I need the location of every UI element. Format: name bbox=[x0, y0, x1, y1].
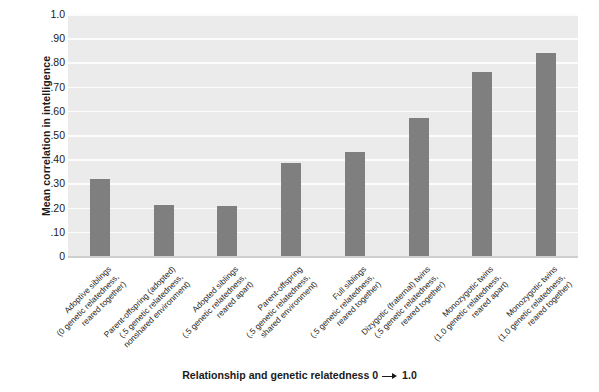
x-axis-baseline bbox=[68, 256, 578, 258]
bar bbox=[154, 205, 174, 256]
y-axis-tick: .30 bbox=[25, 177, 65, 189]
y-axis-tick: .10 bbox=[25, 226, 65, 238]
plot-area bbox=[68, 14, 578, 256]
x-axis-title-suffix: 1.0 bbox=[399, 369, 417, 381]
gridline bbox=[68, 87, 578, 89]
bar bbox=[281, 163, 301, 256]
gridline bbox=[68, 62, 578, 64]
bar bbox=[472, 72, 492, 256]
gridline bbox=[68, 208, 578, 210]
bar bbox=[90, 179, 110, 256]
y-axis-tick: .70 bbox=[25, 81, 65, 93]
gridline bbox=[68, 14, 578, 16]
y-axis-tick: .80 bbox=[25, 56, 65, 68]
y-axis-tick: .90 bbox=[25, 32, 65, 44]
gridline bbox=[68, 38, 578, 40]
x-axis-title-prefix: Relationship and genetic relatedness 0 bbox=[182, 369, 381, 381]
gridline bbox=[68, 232, 578, 234]
arrow-right-icon bbox=[382, 372, 398, 381]
y-axis-tick: 1.0 bbox=[25, 8, 65, 20]
y-axis-tick: .50 bbox=[25, 129, 65, 141]
bar-chart-figure: Mean correlation in intelligence 1.0.90.… bbox=[0, 0, 599, 392]
y-axis-tick: .60 bbox=[25, 105, 65, 117]
bar bbox=[536, 53, 556, 256]
gridline bbox=[68, 135, 578, 137]
x-axis-title: Relationship and genetic relatedness 0 1… bbox=[0, 369, 599, 381]
y-axis-tick: 0 bbox=[25, 250, 65, 262]
gridline bbox=[68, 183, 578, 185]
bar bbox=[409, 118, 429, 256]
bar bbox=[217, 206, 237, 256]
gridline bbox=[68, 159, 578, 161]
y-axis-tick: .40 bbox=[25, 153, 65, 165]
gridline bbox=[68, 111, 578, 113]
y-axis-tick: .20 bbox=[25, 202, 65, 214]
bar bbox=[345, 152, 365, 256]
